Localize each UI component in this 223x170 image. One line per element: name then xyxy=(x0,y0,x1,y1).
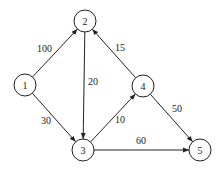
node-1: 1 xyxy=(14,74,36,96)
edge-1-to-2: 100 xyxy=(33,29,78,77)
directed-graph: 100302010155060 12345 xyxy=(0,0,223,170)
edge-weight-label: 30 xyxy=(41,115,51,126)
edge-arrow-icon xyxy=(32,93,75,142)
nodes-layer: 12345 xyxy=(14,10,211,161)
edges-layer: 100302010155060 xyxy=(32,29,192,150)
node-label: 3 xyxy=(81,145,86,156)
edge-arrow-icon xyxy=(150,94,192,142)
node-label: 5 xyxy=(198,145,203,156)
edge-4-to-2: 15 xyxy=(92,29,135,78)
edge-weight-label: 15 xyxy=(115,42,125,53)
node-4: 4 xyxy=(132,75,154,97)
edge-weight-label: 50 xyxy=(172,103,182,114)
node-3: 3 xyxy=(72,139,94,161)
edge-arrow-icon xyxy=(92,29,135,78)
edge-weight-label: 20 xyxy=(88,76,98,87)
edge-arrow-icon xyxy=(91,94,136,142)
edge-2-to-3: 20 xyxy=(83,32,98,139)
edge-1-to-3: 30 xyxy=(32,93,75,142)
edge-arrow-icon xyxy=(83,32,85,139)
node-label: 1 xyxy=(23,80,28,91)
edge-4-to-5: 50 xyxy=(150,94,192,142)
edge-3-to-5: 60 xyxy=(94,135,189,150)
edge-weight-label: 60 xyxy=(136,135,146,146)
node-label: 4 xyxy=(141,81,146,92)
edge-weight-label: 10 xyxy=(115,114,125,125)
node-label: 2 xyxy=(83,16,88,27)
edge-3-to-4: 10 xyxy=(91,94,136,142)
node-5: 5 xyxy=(189,139,211,161)
node-2: 2 xyxy=(74,10,96,32)
edge-weight-label: 100 xyxy=(37,43,52,54)
